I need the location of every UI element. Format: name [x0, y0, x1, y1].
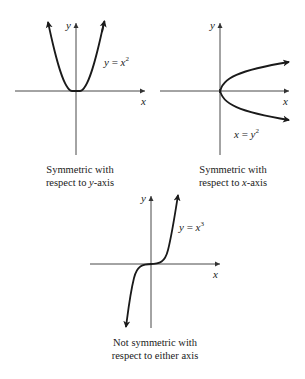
x-axis-label: x — [141, 96, 146, 107]
equation-label: y = x2 — [104, 56, 129, 68]
sideways-parabola-upper — [220, 62, 289, 93]
symmetry-figure — [0, 0, 305, 379]
x-axis-label: x — [283, 96, 288, 107]
sideways-parabola-lower — [220, 89, 289, 120]
cubic-curve-upper — [150, 195, 178, 264]
equation-label: y = x3 — [179, 221, 204, 233]
y-axis-label: y — [141, 193, 146, 204]
caption-x-axis-symmetry: Symmetric with respect to x-axis — [193, 164, 273, 189]
panel-y-equals-x-cubed — [90, 195, 220, 328]
cubic-curve-lower — [126, 264, 152, 327]
panel-x-equals-y-squared — [160, 23, 289, 155]
y-axis-label: y — [210, 20, 215, 31]
panel-y-equals-x-squared — [15, 21, 145, 155]
caption-y-axis-symmetry: Symmetric with respect to y-axis — [40, 164, 120, 189]
caption-no-symmetry: Not symmetric with respect to either axi… — [105, 337, 205, 362]
y-axis-label: y — [66, 20, 71, 31]
equation-label: x = y2 — [234, 128, 259, 140]
x-axis-label: x — [213, 269, 218, 280]
